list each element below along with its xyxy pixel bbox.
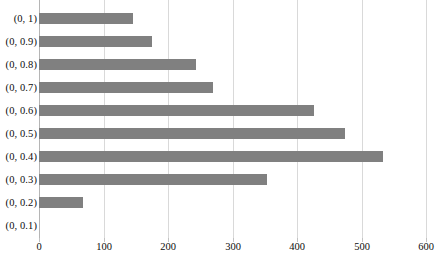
category-label: (0, 0.4) (0, 145, 37, 168)
category-label: (0, 0.9) (0, 30, 37, 53)
bar-row: (0, 0.8) (0, 53, 438, 76)
category-label: (0, 1) (0, 7, 37, 30)
bar (39, 197, 83, 208)
bar-row: (0, 0.6) (0, 99, 438, 122)
bar (39, 13, 133, 24)
category-label: (0, 0.1) (0, 214, 37, 237)
bar-row: (0, 0.7) (0, 76, 438, 99)
x-tick-label: 300 (225, 241, 241, 252)
category-label: (0, 0.3) (0, 168, 37, 191)
x-tick-label: 0 (36, 241, 41, 252)
bar (39, 151, 383, 162)
x-tick-label: 200 (160, 241, 176, 252)
bar-chart: (0, 1)(0, 0.9)(0, 0.8)(0, 0.7)(0, 0.6)(0… (0, 0, 438, 265)
category-label: (0, 0.7) (0, 76, 37, 99)
category-label: (0, 0.5) (0, 122, 37, 145)
x-tick-label: 100 (96, 241, 112, 252)
bar-row: (0, 0.1) (0, 214, 438, 237)
plot-area: (0, 1)(0, 0.9)(0, 0.8)(0, 0.7)(0, 0.6)(0… (0, 0, 438, 238)
bar-row: (0, 0.4) (0, 145, 438, 168)
bar (39, 128, 345, 139)
bar (39, 105, 314, 116)
bar-row: (0, 0.5) (0, 122, 438, 145)
x-tick-label: 500 (354, 241, 370, 252)
category-label: (0, 0.8) (0, 53, 37, 76)
category-label: (0, 0.6) (0, 99, 37, 122)
bar (39, 36, 152, 47)
bar (39, 59, 196, 70)
bar-row: (0, 0.2) (0, 191, 438, 214)
bar (39, 174, 267, 185)
x-tick-label: 400 (289, 241, 305, 252)
bar-row: (0, 1) (0, 7, 438, 30)
bar-row: (0, 0.3) (0, 168, 438, 191)
bar-row: (0, 0.9) (0, 30, 438, 53)
bar (39, 82, 213, 93)
category-label: (0, 0.2) (0, 191, 37, 214)
x-tick-label: 600 (418, 241, 434, 252)
